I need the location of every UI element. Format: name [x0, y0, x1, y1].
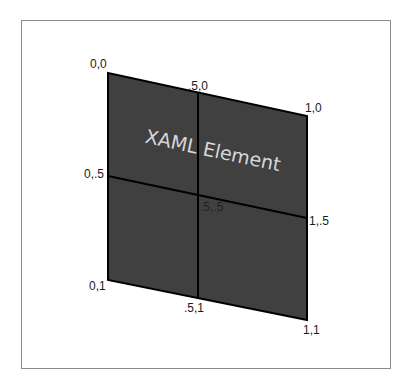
- label-top-right: 1,0: [305, 102, 322, 114]
- label-top-mid: .5,0: [188, 80, 208, 92]
- label-mid-right: 1,.5: [309, 215, 329, 227]
- label-center: .5,.5: [200, 201, 223, 213]
- label-top-left: 0,0: [90, 58, 107, 70]
- label-bottom-left: 0,1: [89, 280, 106, 292]
- skewed-element-shape: [0, 0, 412, 385]
- label-bottom-mid: .5,1: [184, 302, 204, 314]
- label-bottom-right: 1,1: [303, 324, 320, 336]
- label-mid-left: 0,.5: [84, 168, 104, 180]
